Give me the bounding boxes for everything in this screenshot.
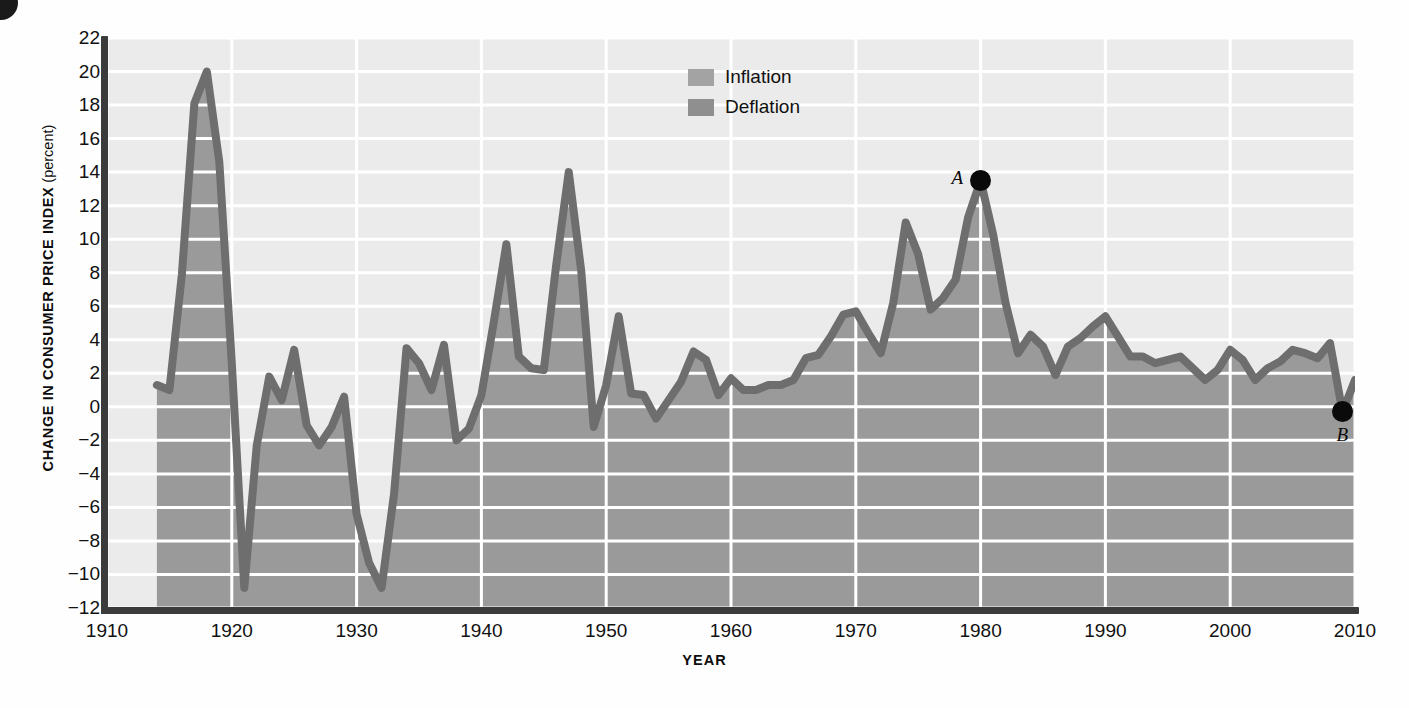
legend-label: Deflation bbox=[725, 96, 800, 118]
y-tick-label: 0 bbox=[54, 397, 100, 416]
x-tick-label: 1910 bbox=[62, 620, 152, 642]
y-tick-label: −4 bbox=[54, 464, 100, 483]
corner-marker-dot bbox=[0, 0, 18, 20]
legend-item-deflation: Deflation bbox=[688, 94, 800, 120]
x-tick-label: 1970 bbox=[811, 620, 901, 642]
y-tick-label: −2 bbox=[54, 430, 100, 449]
chart-legend: InflationDeflation bbox=[688, 64, 800, 124]
x-tick-label: 1990 bbox=[1060, 620, 1150, 642]
y-tick-label: 2 bbox=[54, 363, 100, 382]
chart-figure: CHANGE IN CONSUMER PRICE INDEX (percent)… bbox=[0, 0, 1409, 708]
x-tick-label: 1960 bbox=[686, 620, 776, 642]
x-axis-title: YEAR bbox=[0, 652, 1409, 668]
x-tick-label: 1930 bbox=[312, 620, 402, 642]
legend-swatch-inflation bbox=[688, 69, 714, 86]
y-axis-tick-labels: 2220181614121086420−2−4−6−8−10−12 bbox=[44, 0, 100, 708]
y-tick-label: 18 bbox=[54, 95, 100, 114]
x-tick-label: 2000 bbox=[1185, 620, 1275, 642]
legend-swatch-deflation bbox=[688, 99, 714, 116]
y-tick-label: −8 bbox=[54, 531, 100, 550]
y-tick-label: 14 bbox=[54, 162, 100, 181]
legend-item-inflation: Inflation bbox=[688, 64, 800, 90]
y-tick-label: 16 bbox=[54, 129, 100, 148]
x-tick-label: 1950 bbox=[561, 620, 651, 642]
y-tick-label: 20 bbox=[54, 62, 100, 81]
x-tick-label: 1980 bbox=[936, 620, 1026, 642]
y-tick-label: −12 bbox=[54, 598, 100, 617]
x-tick-label: 1920 bbox=[187, 620, 277, 642]
annotation-dot bbox=[970, 170, 991, 191]
y-tick-label: 22 bbox=[54, 28, 100, 47]
legend-label: Inflation bbox=[725, 66, 792, 88]
annotation-label: B bbox=[1337, 424, 1349, 446]
y-tick-label: −10 bbox=[54, 564, 100, 583]
y-tick-label: 6 bbox=[54, 296, 100, 315]
y-tick-label: 10 bbox=[54, 229, 100, 248]
y-axis-line bbox=[101, 36, 108, 614]
annotation-label: A bbox=[952, 167, 964, 189]
y-tick-label: 4 bbox=[54, 330, 100, 349]
x-axis-line bbox=[101, 607, 1359, 614]
x-tick-label: 2010 bbox=[1310, 620, 1400, 642]
y-tick-label: 8 bbox=[54, 263, 100, 282]
y-tick-label: −6 bbox=[54, 497, 100, 516]
y-tick-label: 12 bbox=[54, 196, 100, 215]
x-tick-label: 1940 bbox=[436, 620, 526, 642]
